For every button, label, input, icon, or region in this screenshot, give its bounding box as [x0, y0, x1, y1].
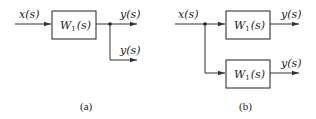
block-diagrams: x(s) W1(s) y(s) y(s) (a) x(s) W1(s) W1(s…: [0, 0, 316, 119]
output-label-a-top: y(s): [119, 8, 140, 21]
caption-b: (b): [239, 100, 252, 113]
output-label-a-bottom: y(s): [119, 44, 140, 57]
input-label-b: x(s): [178, 8, 198, 21]
output-label-b-bottom: y(s): [280, 57, 301, 70]
branch-arrow-b: [205, 24, 225, 73]
output-label-b-top: y(s): [280, 8, 301, 21]
diagram-a: x(s) W1(s) y(s) y(s) (a): [15, 8, 140, 113]
caption-a: (a): [80, 100, 93, 113]
input-label-a: x(s): [19, 8, 39, 21]
diagram-b: x(s) W1(s) W1(s) y(s) y(s) (b): [175, 8, 301, 113]
